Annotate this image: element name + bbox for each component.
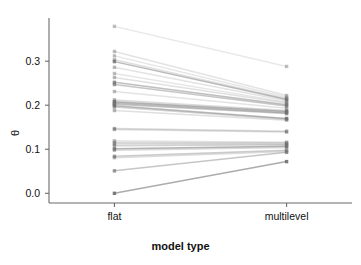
- data-point-flat: [113, 50, 116, 53]
- data-point-flat: [113, 66, 116, 69]
- y-tick-label: 0.0: [6, 187, 40, 199]
- data-point-flat: [113, 54, 116, 57]
- data-point-flat: [113, 109, 116, 112]
- data-point-flat: [113, 83, 116, 86]
- series-line: [114, 51, 286, 95]
- series-line: [114, 26, 286, 66]
- data-point-flat: [113, 169, 116, 172]
- data-point-flat: [113, 156, 116, 159]
- x-tick-label-flat: flat: [107, 210, 121, 222]
- x-tick-label-multilevel: multilevel: [265, 210, 309, 222]
- data-point-flat: [113, 90, 116, 93]
- series-30: [113, 160, 289, 195]
- data-point-flat: [113, 76, 116, 79]
- slope-chart-figure: θ model type 0.00.10.20.3 flatmultilevel: [0, 0, 361, 265]
- data-point-flat: [113, 105, 116, 108]
- data-point-multilevel: [285, 160, 288, 163]
- data-point-multilevel: [285, 65, 288, 68]
- data-point-multilevel: [285, 112, 288, 115]
- data-point-flat: [113, 148, 116, 151]
- data-point-multilevel: [285, 151, 288, 154]
- data-series-layer: [113, 25, 289, 195]
- data-point-multilevel: [285, 118, 288, 121]
- data-point-flat: [113, 25, 116, 28]
- data-point-flat: [113, 72, 116, 75]
- series-line: [114, 162, 286, 194]
- data-point-flat: [113, 128, 116, 131]
- y-tick-label: 0.3: [6, 55, 40, 67]
- series-line: [114, 56, 286, 97]
- y-tick-label: 0.2: [6, 99, 40, 111]
- data-point-flat: [113, 144, 116, 147]
- series-6: [113, 66, 289, 103]
- y-axis-title-text: θ: [9, 129, 21, 135]
- y-axis-title: θ: [4, 0, 26, 265]
- data-point-multilevel: [285, 130, 288, 133]
- x-axis-title: model type: [0, 240, 361, 252]
- data-point-flat: [113, 192, 116, 195]
- y-tick-label: 0.1: [6, 143, 40, 155]
- data-point-flat: [113, 60, 116, 63]
- series-line: [114, 145, 286, 146]
- plot-canvas: [0, 0, 361, 265]
